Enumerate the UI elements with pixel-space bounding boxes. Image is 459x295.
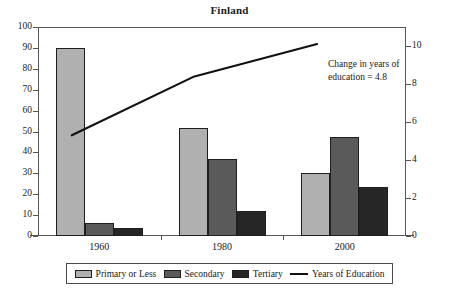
y-tick-mark-right [406, 160, 411, 161]
legend-item-years-of-education: Years of Education [290, 269, 384, 279]
x-tick-label-1960: 1960 [69, 241, 129, 252]
x-tick-label-1980: 1980 [192, 241, 252, 252]
bar-secondary-2000 [330, 137, 359, 236]
bar-tertiary-2000 [359, 187, 388, 236]
y-tick-label-right: 6 [412, 117, 438, 127]
y-tick-label-left: 10 [6, 210, 32, 220]
chart-legend: Primary or LessSecondaryTertiaryYears of… [66, 263, 393, 284]
legend-item-label: Secondary [185, 269, 225, 279]
y-tick-label-left: 90 [6, 43, 32, 53]
y-tick-mark-left [33, 215, 38, 216]
chart-title: Finland [0, 4, 459, 16]
y-tick-mark-left [33, 132, 38, 133]
y-tick-mark-left [33, 27, 38, 28]
y-tick-label-right: 2 [412, 193, 438, 203]
bar-tertiary-1980 [237, 211, 266, 236]
bar-primary-or-less-1980 [179, 128, 208, 236]
y-tick-label-right: 0 [412, 231, 438, 241]
legend-item-tertiary: Tertiary [232, 269, 283, 279]
legend-line-marker-icon [290, 273, 308, 275]
y-tick-label-left: 100 [6, 22, 32, 32]
bar-secondary-1960 [85, 223, 114, 236]
y-tick-mark-right [406, 198, 411, 199]
y-tick-mark-left [33, 194, 38, 195]
y-tick-mark-left [33, 69, 38, 70]
annotation-line-1: Change in years of [328, 58, 448, 71]
y-tick-label-left: 60 [6, 106, 32, 116]
y-axis-left: 0102030405060708090100 [2, 0, 32, 295]
chart-figure: Finland 0102030405060708090100 0246810 1… [0, 0, 459, 295]
y-tick-label-left: 30 [6, 168, 32, 178]
legend-item-secondary: Secondary [164, 269, 225, 279]
y-tick-mark-left [33, 236, 38, 237]
y-tick-mark-left [33, 111, 38, 112]
x-group-separator [283, 235, 284, 240]
y-tick-label-left: 50 [6, 127, 32, 137]
y-tick-label-right: 10 [412, 41, 438, 51]
legend-swatch-icon [75, 270, 92, 278]
legend-item-label: Primary or Less [96, 269, 157, 279]
y-tick-label-left: 0 [6, 231, 32, 241]
y-tick-mark-left [33, 173, 38, 174]
legend-item-primary-or-less: Primary or Less [75, 269, 157, 279]
legend-item-label: Tertiary [253, 269, 283, 279]
y-tick-mark-right [406, 84, 411, 85]
y-tick-label-left: 70 [6, 85, 32, 95]
y-tick-mark-left [33, 152, 38, 153]
bar-secondary-1980 [208, 159, 237, 236]
y-axis-right: 0246810 [412, 0, 446, 295]
bar-primary-or-less-2000 [301, 173, 330, 236]
y-tick-mark-left [33, 90, 38, 91]
y-tick-mark-right [406, 236, 411, 237]
y-tick-label-right: 4 [412, 155, 438, 165]
x-group-separator [161, 235, 162, 240]
y-tick-mark-right [406, 46, 411, 47]
y-tick-label-left: 20 [6, 189, 32, 199]
legend-swatch-icon [164, 270, 181, 278]
legend-swatch-icon [232, 270, 249, 278]
y-tick-label-left: 80 [6, 64, 32, 74]
y-tick-label-left: 40 [6, 147, 32, 157]
legend-item-label: Years of Education [312, 269, 384, 279]
x-tick-label-2000: 2000 [315, 241, 375, 252]
bar-primary-or-less-1960 [56, 48, 85, 236]
y-tick-mark-right [406, 122, 411, 123]
annotation-line-2: education = 4.8 [328, 71, 448, 84]
annotation-change-in-years: Change in years of education = 4.8 [328, 58, 448, 84]
bar-tertiary-1960 [114, 228, 143, 236]
y-tick-mark-left [33, 48, 38, 49]
